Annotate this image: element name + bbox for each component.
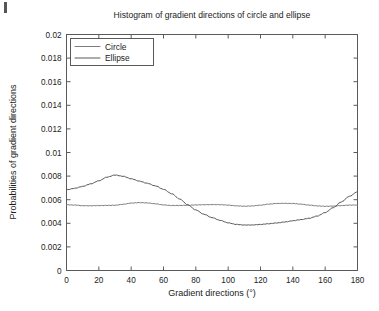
series-line-ellipse (67, 175, 358, 225)
y-tick-label: 0.02 (46, 31, 62, 40)
chart-title: Histogram of gradient directions of circ… (114, 10, 311, 20)
legend-label-ellipse: Ellipse (105, 53, 130, 63)
y-tick-label: 0.01 (46, 149, 62, 158)
y-tick-label: 0 (57, 267, 62, 276)
x-tick-label: 60 (159, 276, 169, 285)
y-tick-label: 0.006 (41, 196, 62, 205)
y-tick-label: 0.002 (41, 243, 62, 252)
legend-label-circle: Circle (105, 42, 127, 52)
x-tick-label: 160 (318, 276, 332, 285)
x-tick-label: 100 (221, 276, 235, 285)
series-group (67, 175, 358, 225)
y-tick-label: 0.016 (41, 78, 62, 87)
page-edge-mark (4, 2, 7, 13)
x-axis-title: Gradient directions (°) (168, 288, 256, 298)
y-axis-title: Probabilities of gradient directions (8, 84, 18, 220)
y-tick-label: 0.004 (41, 219, 62, 228)
chart-legend[interactable]: Circle Ellipse (71, 39, 154, 66)
y-tick-label: 0.014 (41, 101, 62, 110)
x-tick-label: 0 (64, 276, 69, 285)
x-tick-label: 40 (127, 276, 137, 285)
x-tick-label: 140 (286, 276, 300, 285)
y-tick-label: 0.008 (41, 172, 62, 181)
series-line-circle (67, 202, 358, 206)
x-tick-label: 180 (351, 276, 365, 285)
plot-frame (67, 35, 358, 271)
gradient-direction-histogram-chart: Histogram of gradient directions of circ… (0, 0, 379, 311)
figure-canvas: Histogram of gradient directions of circ… (0, 0, 379, 311)
y-tick-label: 0.018 (41, 54, 62, 63)
x-tick-label: 120 (254, 276, 268, 285)
x-tick-label: 80 (191, 276, 201, 285)
x-axis-ticks: 020406080100120140160180 (64, 35, 365, 285)
y-tick-label: 0.012 (41, 125, 62, 134)
y-axis-ticks: 00.0020.0040.0060.0080.010.0120.0140.016… (41, 31, 358, 276)
x-tick-label: 20 (94, 276, 104, 285)
